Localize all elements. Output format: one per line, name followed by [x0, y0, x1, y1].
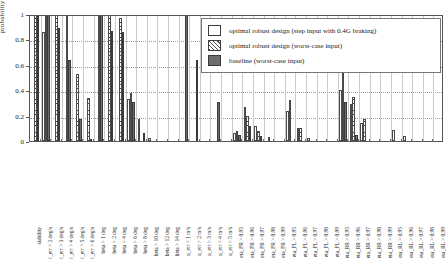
legend-item: optimal robust design (step input with 0…: [208, 24, 434, 37]
x-tick-label: beta > 6 deg: [132, 227, 138, 254]
bar-series-3: [37, 15, 40, 141]
bar-group: [62, 16, 73, 141]
x-tick-label: u_err > 2 m/s: [196, 227, 202, 256]
x-tick-mark: [209, 139, 210, 142]
x-tick-mark: [316, 139, 317, 142]
y-tick-label: 0.6: [0, 62, 24, 70]
x-tick-label: eta_RL > 0.98: [429, 227, 435, 258]
legend-swatch: [208, 40, 221, 51]
x-tick-mark: [135, 139, 136, 142]
x-tick-label: u_err > 3 m/s: [206, 227, 212, 256]
x-tick-mark: [422, 139, 423, 142]
bar-group: [157, 16, 168, 141]
x-tick-mark: [347, 139, 348, 142]
y-tick-label: 0.8: [0, 36, 24, 44]
bar-series-3: [122, 32, 125, 141]
bar-group: [94, 16, 105, 141]
x-tick-label: u_err > 4 m/s: [217, 227, 223, 256]
x-tick-mark: [125, 139, 126, 142]
x-tick-mark: [369, 139, 370, 142]
x-tick-mark: [50, 139, 51, 142]
bar-group: [72, 16, 83, 141]
bar-series-3: [196, 60, 199, 141]
x-tick-label: eta_RL > 0.97: [418, 227, 424, 258]
x-tick-mark: [156, 139, 157, 142]
bar-group: [147, 16, 158, 141]
x-tick-label: eta_FL > 0.97: [312, 227, 318, 257]
x-tick-label: beta > 1 deg: [100, 227, 106, 254]
x-tick-label: eta_RR > 0.95: [344, 227, 350, 258]
bar-series-2: [289, 100, 292, 141]
bar-group: [179, 16, 190, 141]
bar-series-2: [363, 119, 366, 141]
x-tick-mark: [61, 139, 62, 142]
x-tick-mark: [231, 139, 232, 142]
bar-series-3: [185, 15, 188, 141]
legend-item: optimal robust design (worst-case input): [208, 39, 434, 52]
bar-group: [30, 16, 41, 141]
y-tick-label: 1: [0, 11, 24, 19]
bar-series-3: [68, 60, 71, 141]
legend-swatch: [208, 55, 221, 66]
bar-series-1: [307, 138, 310, 141]
chart-legend: optimal robust design (step input with 0…: [201, 18, 441, 73]
x-tick-label: u_err > 1 m/s: [185, 227, 191, 256]
x-tick-label: beta > 4 deg: [121, 227, 127, 254]
bar-group: [136, 16, 147, 141]
bar-series-3: [344, 102, 347, 141]
x-tick-label: r_err > 5 deg/s: [79, 227, 85, 259]
x-tick-mark: [93, 139, 94, 142]
x-tick-mark: [273, 139, 274, 142]
legend-label: optimal robust design (worst-case input): [229, 42, 342, 50]
x-tick-mark: [379, 139, 380, 142]
x-tick-mark: [432, 139, 433, 142]
legend-label: baseline (worst-case input): [229, 57, 304, 65]
x-tick-label: eta_FR > 0.98: [270, 227, 276, 258]
x-axis-labels: stabilityr_err > 2 deg/sr_err > 3 deg/sr…: [29, 143, 443, 230]
x-tick-label: r_err > 4 deg/s: [68, 227, 74, 259]
x-tick-label: beta > 14 deg: [174, 227, 180, 256]
x-tick-mark: [358, 139, 359, 142]
x-tick-mark: [401, 139, 402, 142]
x-tick-mark: [146, 139, 147, 142]
x-tick-mark: [263, 139, 264, 142]
bar-group: [189, 16, 200, 141]
x-tick-label: beta > 10 deg: [153, 227, 159, 256]
x-tick-label: eta_RR > 0.96: [355, 227, 361, 258]
x-tick-mark: [284, 139, 285, 142]
x-tick-label: beta > 12 deg: [164, 227, 170, 256]
bar-series-3: [100, 15, 103, 141]
bar-group: [51, 16, 62, 141]
x-tick-mark: [71, 139, 72, 142]
x-tick-mark: [390, 139, 391, 142]
x-tick-label: eta_FR > 0.99: [280, 227, 286, 258]
bar-series-2: [299, 128, 302, 141]
x-tick-label: beta > 8 deg: [142, 227, 148, 254]
x-tick-label: eta_FR > 0.96: [249, 227, 255, 258]
y-tick-label: 0: [0, 138, 24, 146]
x-tick-label: r_err > 2 deg/s: [47, 227, 53, 259]
x-tick-mark: [411, 139, 412, 142]
bar-series-2: [268, 137, 271, 141]
x-tick-label: eta_RR > 0.97: [365, 227, 371, 258]
x-tick-mark: [326, 139, 327, 142]
y-tick-label: 0.2: [0, 113, 24, 121]
legend-label: optimal robust design (step input with 0…: [229, 27, 376, 35]
x-tick-label: eta_RL > 0.96: [408, 227, 414, 258]
legend-item: baseline (worst-case input): [208, 54, 434, 67]
x-tick-label: eta_FL > 0.99: [334, 227, 340, 257]
x-tick-label: eta_FR > 0.97: [259, 227, 265, 258]
x-tick-mark: [178, 139, 179, 142]
x-tick-mark: [220, 139, 221, 142]
x-tick-mark: [252, 139, 253, 142]
bar-group: [126, 16, 137, 141]
bar-series-3: [79, 119, 82, 141]
bar-series-1: [148, 138, 151, 141]
x-tick-label: eta_FL > 0.98: [323, 227, 329, 257]
bar-group: [168, 16, 179, 141]
legend-swatch: [208, 25, 221, 36]
bar-series-2: [87, 98, 90, 141]
x-tick-mark: [241, 139, 242, 142]
bar-series-1: [138, 119, 141, 141]
